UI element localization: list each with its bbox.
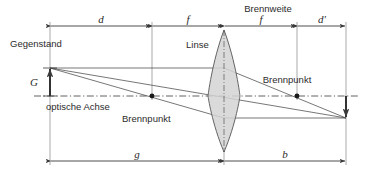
optics-diagram: Brennweite Gegenstand Linse Brennpunkt o… (0, 0, 375, 173)
focal-point-right-marker (295, 94, 300, 99)
label-object-height-G: G (30, 76, 38, 88)
diagram-canvas: Brennweite Gegenstand Linse Brennpunkt o… (0, 0, 375, 173)
label-dim-f-right: f (259, 13, 264, 25)
label-dim-g: g (134, 148, 140, 160)
label-dim-d: d (98, 13, 104, 25)
label-brennweite: Brennweite (244, 3, 292, 14)
focal-point-left-marker (150, 94, 155, 99)
label-gegenstand: Gegenstand (10, 38, 62, 49)
label-dim-d-prime: d' (318, 13, 327, 25)
label-brennpunkt-left: Brennpunkt (122, 113, 171, 124)
label-dim-f-left: f (186, 13, 191, 25)
label-linse: Linse (186, 39, 209, 50)
label-optische-achse: optische Achse (46, 101, 110, 112)
label-brennpunkt-right: Brennpunkt (263, 74, 312, 85)
label-dim-b: b (282, 148, 288, 160)
